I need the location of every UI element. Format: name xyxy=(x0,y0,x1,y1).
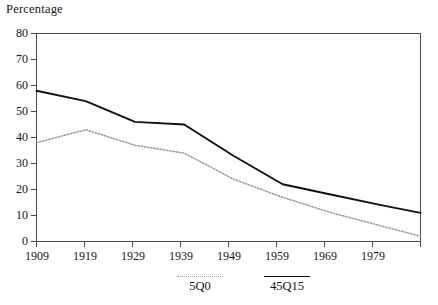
legend-label-45q15: 45Q15 xyxy=(270,279,304,293)
y-tick-label-70: 70 xyxy=(2,53,28,65)
axis-lines xyxy=(37,33,422,242)
x-tick-label-1969: 1969 xyxy=(305,250,345,262)
x-tick-label-1979: 1979 xyxy=(353,250,393,262)
x-tick-label-1909: 1909 xyxy=(17,250,57,262)
y-tick-label-80: 80 xyxy=(2,27,28,39)
x-tick-label-1939: 1939 xyxy=(161,250,201,262)
legend-swatch-dotted-icon xyxy=(177,276,223,277)
series-line-5q0 xyxy=(37,130,421,237)
x-axis-ticks xyxy=(37,242,421,248)
chart-legend: 5Q0 45Q15 xyxy=(0,276,438,302)
legend-entry-45q15: 45Q15 xyxy=(247,276,327,293)
legend-swatch-solid-icon xyxy=(264,276,310,277)
y-tick-label-40: 40 xyxy=(2,131,28,143)
y-tick-label-60: 60 xyxy=(2,79,28,91)
y-tick-label-20: 20 xyxy=(2,183,28,195)
y-tick-label-10: 10 xyxy=(2,209,28,221)
chart-container: Percentage xyxy=(0,0,438,305)
legend-entry-5q0: 5Q0 xyxy=(165,276,235,293)
y-tick-label-30: 30 xyxy=(2,157,28,169)
x-tick-label-1929: 1929 xyxy=(113,250,153,262)
series-line-45q15 xyxy=(37,91,421,213)
x-tick-label-1949: 1949 xyxy=(209,250,249,262)
y-tick-label-0: 0 xyxy=(2,235,28,247)
x-tick-label-1959: 1959 xyxy=(257,250,297,262)
legend-label-5q0: 5Q0 xyxy=(189,279,211,293)
y-axis-ticks xyxy=(31,34,37,242)
y-tick-label-50: 50 xyxy=(2,105,28,117)
x-tick-label-1919: 1919 xyxy=(65,250,105,262)
